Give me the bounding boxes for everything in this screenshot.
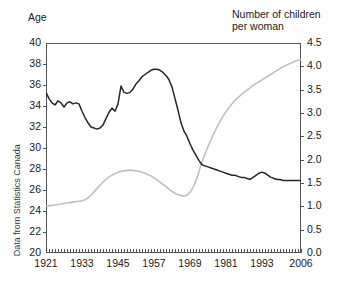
x-tick-mark [55, 249, 56, 253]
series-line-age [46, 69, 301, 180]
y-tick-label-right: 2.5 [307, 129, 337, 141]
y-tick-mark-right [301, 230, 304, 231]
x-tick-mark [202, 249, 203, 253]
x-tick-mark [166, 249, 167, 253]
x-tick-mark [157, 249, 158, 253]
x-tick-mark [277, 249, 278, 253]
x-tick-mark [211, 249, 212, 253]
x-tick-mark [214, 249, 215, 253]
y-tick-mark-left [43, 64, 46, 65]
y-tick-label-left: 32 [17, 120, 41, 132]
x-tick-mark [172, 249, 173, 253]
x-tick-label: 1921 [26, 257, 66, 269]
x-tick-mark [247, 249, 248, 253]
y-tick-mark-right [301, 206, 304, 207]
x-tick-mark [133, 249, 134, 253]
x-tick-mark [226, 249, 227, 253]
x-tick-mark [112, 249, 113, 253]
chart-figure: Age Number of children per woman Data fr… [0, 0, 343, 282]
x-tick-label: 2006 [281, 257, 321, 269]
x-tick-mark [298, 249, 299, 253]
y-tick-mark-right [301, 160, 304, 161]
y-tick-mark-left [43, 148, 46, 149]
x-tick-label: 1993 [242, 257, 282, 269]
x-tick-label: 1945 [98, 257, 138, 269]
y-tick-mark-left [43, 169, 46, 170]
x-tick-mark [88, 249, 89, 253]
x-tick-mark [73, 249, 74, 253]
y-tick-label-left: 34 [17, 99, 41, 111]
x-tick-mark [85, 249, 86, 253]
x-tick-label: 1969 [170, 257, 210, 269]
x-tick-mark [268, 249, 269, 253]
x-tick-mark [103, 249, 104, 253]
y-tick-label-right: 1.0 [307, 199, 337, 211]
y-tick-mark-left [43, 85, 46, 86]
x-tick-mark [139, 249, 140, 253]
x-tick-mark [286, 249, 287, 253]
y-tick-label-left: 22 [17, 225, 41, 237]
y-tick-mark-left [43, 106, 46, 107]
x-tick-mark [262, 249, 263, 253]
x-tick-label: 1957 [134, 257, 174, 269]
x-tick-mark [259, 249, 260, 253]
y-tick-label-right: 3.5 [307, 83, 337, 95]
y-tick-mark-left [43, 211, 46, 212]
x-tick-mark [76, 249, 77, 253]
x-tick-mark [91, 249, 92, 253]
x-tick-mark [58, 249, 59, 253]
x-tick-mark [220, 249, 221, 253]
x-tick-mark [184, 249, 185, 253]
y-tick-label-right: 3.0 [307, 106, 337, 118]
x-tick-mark [280, 249, 281, 253]
x-tick-mark [145, 249, 146, 253]
x-tick-mark [271, 249, 272, 253]
y-tick-label-left: 24 [17, 204, 41, 216]
x-tick-mark [190, 249, 191, 253]
x-tick-mark [232, 249, 233, 253]
x-tick-mark [127, 249, 128, 253]
x-tick-mark [295, 249, 296, 253]
x-tick-mark [265, 249, 266, 253]
x-tick-mark [292, 249, 293, 253]
x-tick-label: 1933 [62, 257, 102, 269]
y-tick-label-right: 0.5 [307, 223, 337, 235]
x-tick-mark [121, 249, 122, 253]
x-tick-mark [181, 249, 182, 253]
y-tick-mark-right [301, 113, 304, 114]
x-tick-mark [205, 249, 206, 253]
y-tick-label-right: 4.5 [307, 36, 337, 48]
x-tick-mark [196, 249, 197, 253]
x-tick-mark [163, 249, 164, 253]
right-axis-title: Number of children per woman [232, 8, 321, 33]
y-tick-mark-right [301, 183, 304, 184]
x-tick-mark [61, 249, 62, 253]
x-tick-mark [301, 249, 302, 253]
x-tick-mark [256, 249, 257, 253]
y-tick-label-left: 26 [17, 183, 41, 195]
x-tick-mark [235, 249, 236, 253]
x-tick-mark [223, 249, 224, 253]
x-tick-mark [79, 249, 80, 253]
x-tick-mark [67, 249, 68, 253]
x-tick-mark [238, 249, 239, 253]
y-tick-mark-right [301, 66, 304, 67]
x-tick-mark [169, 249, 170, 253]
x-tick-mark [253, 249, 254, 253]
y-tick-mark-left [43, 190, 46, 191]
x-tick-mark [106, 249, 107, 253]
x-tick-mark [283, 249, 284, 253]
x-tick-mark [193, 249, 194, 253]
y-tick-label-left: 40 [17, 36, 41, 48]
x-tick-mark [217, 249, 218, 253]
y-tick-mark-right [301, 136, 304, 137]
x-tick-mark [136, 249, 137, 253]
x-tick-mark [49, 249, 50, 253]
x-tick-mark [100, 249, 101, 253]
x-tick-mark [97, 249, 98, 253]
x-tick-mark [94, 249, 95, 253]
x-tick-mark [151, 249, 152, 253]
y-tick-label-right: 2.0 [307, 153, 337, 165]
y-tick-mark-left [43, 127, 46, 128]
x-tick-mark [199, 249, 200, 253]
